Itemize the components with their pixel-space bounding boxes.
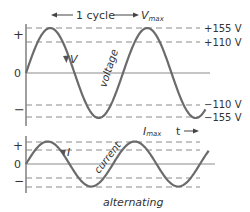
voltage-direction-arrow-icon	[63, 56, 69, 64]
arrow-right-icon	[193, 129, 199, 134]
current-panel: + 0 − Imax t I current alternating	[13, 125, 215, 209]
current-axis-plus: +	[13, 139, 23, 153]
voltage-axis-zero: 0	[14, 67, 21, 80]
voltage-axis-minus: −	[14, 102, 25, 117]
level-label-plus155: +155 V	[204, 23, 242, 34]
voltage-panel: + 0 − +155 V +110 V −110 V −155 V 1 cycl…	[13, 9, 242, 126]
current-wave-label: current	[92, 139, 124, 175]
voltage-axis-plus: +	[13, 27, 24, 42]
current-axis-zero: 0	[14, 158, 21, 171]
diagram-title: alternating	[103, 196, 163, 209]
vmax-label: Vmax	[141, 9, 165, 23]
cycle-label: 1 cycle	[76, 9, 115, 22]
current-axis-minus: −	[14, 174, 24, 188]
ac-diagram: + 0 − +155 V +110 V −110 V −155 V 1 cycl…	[0, 0, 250, 212]
level-label-minus155: −155 V	[204, 112, 242, 123]
voltage-arrow-label: V	[70, 53, 79, 66]
arrow-left-icon	[51, 13, 57, 18]
time-label: t	[176, 125, 181, 138]
current-arrow-label: I	[67, 146, 70, 159]
level-label-minus110: −110 V	[204, 99, 242, 110]
cycle-indicator: 1 cycle	[51, 9, 139, 22]
imax-label: Imax	[143, 125, 162, 138]
level-label-plus110: +110 V	[204, 37, 242, 48]
voltage-wave-label: voltage	[96, 48, 120, 89]
arrow-right-icon	[133, 13, 139, 18]
